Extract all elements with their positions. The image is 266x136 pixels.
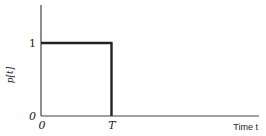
y-axis-label: p[t] <box>5 66 15 83</box>
x-tick-T: T <box>108 119 117 132</box>
x-tick-0: 0 <box>39 119 46 132</box>
x-axis-label: Time t <box>233 122 258 132</box>
pulse-chart: 1 0 0 T p[t] Time t <box>0 0 266 136</box>
y-tick-1: 1 <box>29 37 36 50</box>
y-tick-0: 0 <box>29 110 36 123</box>
